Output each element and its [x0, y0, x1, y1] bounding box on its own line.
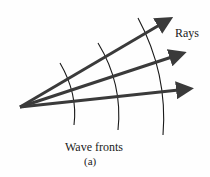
subfigure-label: (a): [84, 155, 96, 167]
wave-diagram: Rays Wave fronts (a): [0, 0, 210, 177]
rays-label: Rays: [175, 26, 199, 41]
wave-fronts-label: Wave fronts: [65, 140, 123, 155]
